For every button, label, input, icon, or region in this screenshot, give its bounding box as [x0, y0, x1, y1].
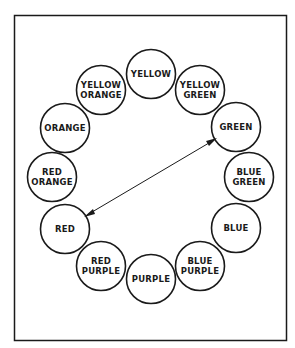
color-node-red: RED: [41, 205, 90, 254]
color-label-red-orange: RED: [42, 167, 62, 177]
color-label-yellow-orange: YELLOW: [80, 80, 122, 90]
color-label-yellow-orange: ORANGE: [80, 90, 121, 100]
color-node-blue-purple: BLUEPURPLE: [176, 242, 225, 291]
color-label-blue-green: GREEN: [232, 177, 265, 187]
color-label-blue-green: BLUE: [236, 167, 261, 177]
color-label-blue-purple: PURPLE: [181, 266, 219, 276]
arrow-line: [87, 140, 214, 215]
color-node-blue: BLUE: [212, 204, 261, 253]
color-label-yellow-green: GREEN: [183, 90, 216, 100]
color-label-blue-purple: BLUE: [187, 256, 212, 266]
color-label-purple: PURPLE: [132, 274, 170, 284]
arrowhead-red: [84, 209, 95, 217]
complement-arrow: [84, 138, 217, 217]
color-label-blue: BLUE: [223, 223, 248, 233]
color-node-yellow: YELLOW: [127, 50, 176, 99]
color-node-red-orange: REDORANGE: [28, 153, 77, 202]
color-label-red-purple: RED: [91, 256, 111, 266]
color-node-yellow-orange: YELLOWORANGE: [77, 66, 126, 115]
color-label-red-purple: PURPLE: [82, 266, 120, 276]
color-node-red-purple: REDPURPLE: [77, 242, 126, 291]
color-label-yellow-green: YELLOW: [179, 80, 221, 90]
color-label-yellow: YELLOW: [130, 69, 172, 79]
color-label-red-orange: ORANGE: [31, 177, 72, 187]
color-node-blue-green: BLUEGREEN: [225, 153, 274, 202]
color-node-orange: ORANGE: [41, 104, 90, 153]
color-node-purple: PURPLE: [127, 255, 176, 304]
color-node-yellow-green: YELLOWGREEN: [176, 66, 225, 115]
color-label-green: GREEN: [219, 122, 252, 132]
arrowhead-green: [206, 138, 217, 146]
color-label-orange: ORANGE: [44, 123, 85, 133]
color-wheel-diagram: YELLOWYELLOWGREENGREENBLUEGREENBLUEBLUEP…: [0, 0, 295, 348]
color-label-red: RED: [55, 224, 75, 234]
color-node-green: GREEN: [212, 103, 261, 152]
